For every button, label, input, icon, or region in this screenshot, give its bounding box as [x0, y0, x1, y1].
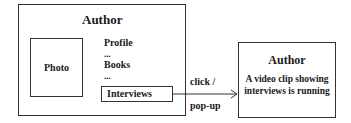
- menu-item-books[interactable]: Books: [104, 59, 130, 70]
- transition-label-click: click /: [190, 76, 215, 87]
- author-page-title: Author: [82, 12, 122, 28]
- popup-title: Author: [239, 53, 335, 68]
- photo-label: Photo: [31, 39, 82, 96]
- arrow-right-icon: [173, 88, 239, 100]
- menu-item-ellipsis: ...: [104, 71, 111, 81]
- popup-description: A video clip showing interviews is runni…: [239, 73, 335, 97]
- interviews-button[interactable]: Interviews: [101, 86, 173, 102]
- menu-item-ellipsis: ...: [104, 49, 111, 59]
- menu-item-profile[interactable]: Profile: [104, 37, 133, 48]
- transition-label-popup: pop-up: [190, 100, 221, 111]
- popup-window: Author A video clip showing interviews i…: [238, 42, 336, 118]
- photo-placeholder: Photo: [30, 38, 83, 97]
- interviews-button-label: Interviews: [107, 88, 152, 99]
